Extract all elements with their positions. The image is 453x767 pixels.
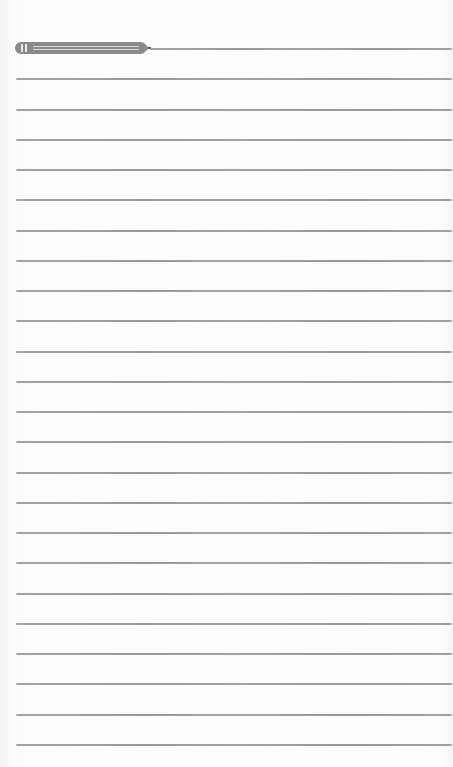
ruled-line — [16, 320, 452, 322]
ruled-line — [16, 169, 452, 171]
ruled-line — [16, 532, 452, 534]
ruled-line — [16, 441, 452, 443]
pencil-band — [25, 44, 27, 52]
ruled-line — [16, 78, 452, 80]
ruled-line — [16, 653, 452, 655]
pencil-stripe — [33, 46, 139, 47]
pencil-stripe — [33, 49, 139, 50]
notepad-paper — [0, 0, 453, 767]
ruled-line — [16, 351, 452, 353]
ruled-line — [16, 109, 452, 111]
ruled-line — [16, 744, 452, 746]
ruled-line — [16, 472, 452, 474]
ruled-line — [16, 623, 452, 625]
ruled-line — [16, 714, 452, 716]
ruled-line — [16, 593, 452, 595]
ruled-line — [150, 48, 452, 50]
ruled-line — [16, 199, 452, 201]
ruled-line — [16, 683, 452, 685]
ruled-line — [16, 290, 452, 292]
pencil-band — [21, 44, 23, 52]
ruled-line — [16, 562, 452, 564]
ruled-line — [16, 502, 452, 504]
ruled-line — [16, 139, 452, 141]
ruled-line — [16, 260, 452, 262]
ruled-line — [16, 411, 452, 413]
ruled-line — [16, 381, 452, 383]
ruled-line — [16, 230, 452, 232]
pencil-body — [15, 42, 143, 54]
